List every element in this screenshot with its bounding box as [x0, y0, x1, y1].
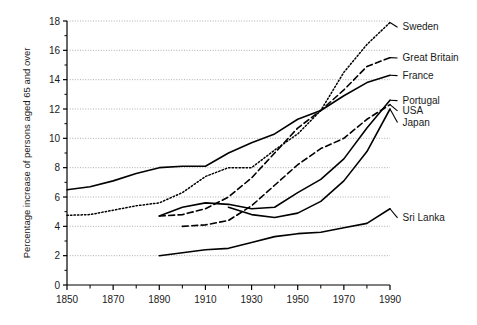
y-tick-label-6: 6: [54, 192, 60, 203]
x-tick-label-1870: 1870: [102, 294, 125, 305]
y-tick-label-8: 8: [54, 162, 60, 173]
y-axis-title-text: Percentage increase of persons aged 65 a…: [21, 48, 32, 259]
x-tick-label-1950: 1950: [287, 294, 310, 305]
y-tick-label-4: 4: [54, 221, 60, 232]
series-label-sri-lanka: Sri Lanka: [403, 212, 446, 223]
y-tick-label-0: 0: [54, 280, 60, 291]
x-tick-label-1910: 1910: [194, 294, 217, 305]
x-tick-label-1990: 1990: [379, 294, 402, 305]
series-label-japan: Japan: [403, 117, 430, 128]
series-label-usa: USA: [403, 105, 424, 116]
chart-figure: 18501870189019101930195019701990 0246810…: [0, 0, 477, 325]
y-tick-label-16: 16: [49, 45, 61, 56]
y-tick-label-2: 2: [54, 250, 60, 261]
line-chart: 18501870189019101930195019701990 0246810…: [0, 0, 477, 325]
x-tick-label-1850: 1850: [56, 294, 79, 305]
series-label-sweden: Sweden: [403, 21, 439, 32]
x-tick-label-1890: 1890: [148, 294, 171, 305]
x-tick-label-1930: 1930: [240, 294, 263, 305]
y-tick-label-18: 18: [49, 16, 61, 27]
series-label-great-britain: Great Britain: [403, 52, 459, 63]
y-tick-label-12: 12: [49, 104, 61, 115]
series-label-france: France: [403, 70, 435, 81]
y-tick-label-14: 14: [49, 74, 61, 85]
x-tick-label-1970: 1970: [333, 294, 356, 305]
y-tick-label-10: 10: [49, 133, 61, 144]
chart-background: [0, 0, 477, 325]
y-axis-title: Percentage increase of persons aged 65 a…: [21, 48, 32, 259]
